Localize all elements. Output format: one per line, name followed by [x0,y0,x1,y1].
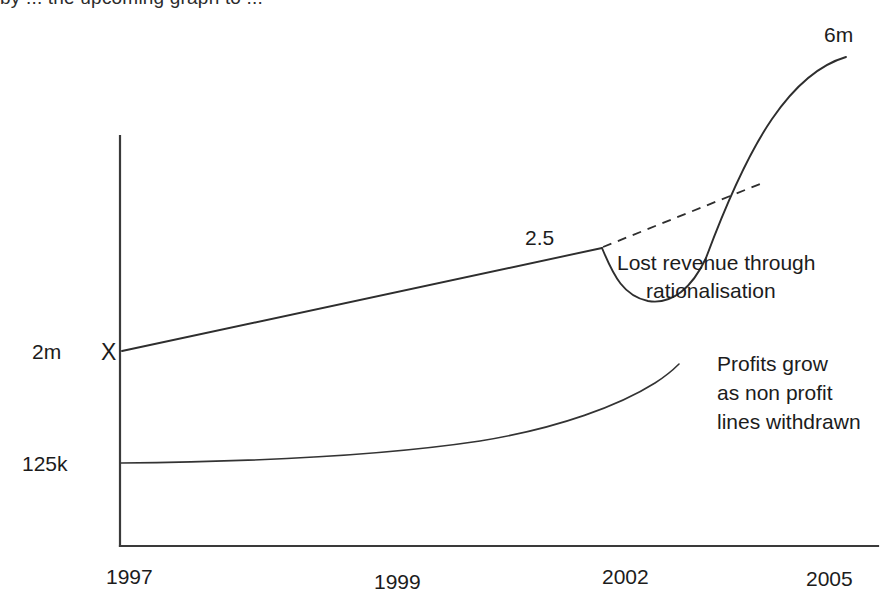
annotation-lost-revenue: Lost revenue through rationalisation [617,251,815,302]
series-revenue-extrapolated [603,184,760,247]
x-tick-label-1999: 1999 [374,570,421,593]
y-tick-label-2m: 2m [32,340,61,363]
annotation-profits-grow: Profits grow as non profit lines withdra… [717,352,861,433]
value-label-6m: 6m [824,23,853,46]
annotation-lost-revenue-line2: rationalisation [646,279,776,302]
annotation-profits-grow-line1: Profits grow [717,352,829,375]
revenue-recovery-segment [706,57,846,258]
series-revenue [122,57,846,351]
x-tick-label-1997: 1997 [106,565,153,588]
x-tick-label-2002: 2002 [602,565,649,588]
revenue-rising-segment [122,248,602,351]
data-value-labels: 2.5 6m [525,23,853,249]
chart-axes [120,136,878,546]
chart-canvas: 2m 125k X 2.5 6m 1997 1999 2002 2005 Los… [0,0,896,600]
annotation-lost-revenue-line1: Lost revenue through [617,251,815,274]
x-axis-labels: 1997 1999 2002 2005 [106,565,853,593]
y-tick-label-125k: 125k [22,452,68,475]
annotation-profits-grow-line2: as non profit [717,381,833,404]
chart-figure: by ... the upcoming graph to ... 2m 125k… [0,0,896,600]
origin-x-marker: X [101,339,116,365]
profits-curve [121,364,679,463]
lost-revenue-dashed-line [603,184,760,247]
x-tick-label-2005: 2005 [806,567,853,590]
value-label-2point5: 2.5 [525,226,554,249]
annotation-profits-grow-line3: lines withdrawn [717,410,861,433]
series-profits [121,364,679,463]
y-axis-labels: 2m 125k [22,340,68,475]
